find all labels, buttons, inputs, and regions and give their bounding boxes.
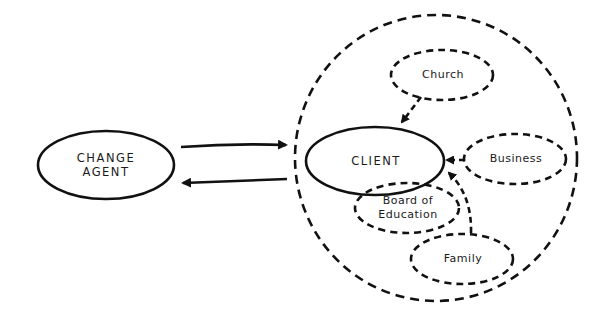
arrow-church-to-client: [402, 97, 421, 122]
board-of-education-label-line1: Board of: [378, 194, 437, 208]
board-of-education-label-line2: Education: [378, 208, 437, 222]
change-agent-label-line1: CHANGE: [77, 151, 135, 165]
business-label: Business: [490, 152, 543, 166]
client-label: CLIENT: [351, 154, 401, 168]
family-label: Family: [444, 252, 482, 266]
arrow-client-to-agent: [183, 179, 287, 183]
arrow-agent-to-client: [181, 144, 286, 147]
change-agent-label: CHANGE AGENT: [77, 151, 135, 180]
board-of-education-label: Board of Education: [378, 194, 437, 222]
church-label: Church: [422, 68, 464, 82]
arrow-family-to-client: [449, 173, 471, 233]
change-agent-label-line2: AGENT: [77, 165, 135, 179]
